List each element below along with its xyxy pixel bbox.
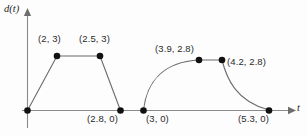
chart-figure: d(t) t (2, 3) (2.5, 3) (2.8, 0) (3, 0) (… [0,0,307,136]
marker-origin [24,107,31,114]
marker-peak-start-2 [196,57,203,64]
point-label-2-3: (2, 3) [38,33,61,44]
marker-fall-end-1 [117,107,124,114]
point-label-2p8-0: (2.8, 0) [87,113,118,124]
point-label-5p3-0: (5.3, 0) [238,113,269,124]
x-axis-label: t [297,102,300,113]
marker-peak-end-1 [97,53,104,60]
y-axis-label: d(t) [4,3,19,14]
series-second-pulse [144,60,270,111]
point-label-3p9-2p8: (3.9, 2.8) [155,43,194,54]
y-axis-arrowhead [24,8,31,16]
point-label-3-0: (3, 0) [146,113,169,124]
point-label-2p5-3: (2.5, 3) [79,33,110,44]
marker-peak-end-2 [219,57,226,64]
x-axis-arrowhead [288,107,296,114]
marker-peak-start-1 [54,53,61,60]
series-first-pulse [28,56,121,111]
point-label-4p2-2p8: (4.2, 2.8) [227,56,266,67]
